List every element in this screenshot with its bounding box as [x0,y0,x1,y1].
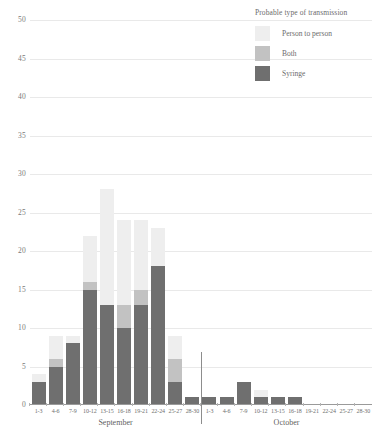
bar-stack [168,336,182,405]
bar-stack [49,336,63,405]
tick-mark [285,403,286,406]
bar-segment [254,390,268,398]
legend-item[interactable]: Syringe [255,63,380,83]
y-axis-tick-50: 50 [2,16,26,24]
bar-group [150,20,167,405]
x-axis-tick-label: 19-21 [134,408,148,414]
bar-group [47,20,64,405]
bar-segment [117,328,131,405]
x-axis-tick-label: 16-18 [117,408,131,414]
bar-segment [134,220,148,289]
bar-stack [237,382,251,405]
bar-group [81,20,98,405]
bar-stack [32,374,46,405]
tick-mark [166,403,167,406]
bar-segment [168,336,182,359]
legend: Probable type of transmission Person to … [255,8,380,83]
tick-mark [114,403,115,406]
y-axis-tick-45: 45 [2,55,26,63]
tick-mark [251,403,252,406]
x-axis-tick-label: 10-12 [83,408,97,414]
y-axis-tick-25: 25 [2,209,26,217]
bar-segment [66,343,80,405]
bar-segment [168,382,182,405]
bar-segment [151,228,165,267]
bar-stack [151,228,165,405]
month-label-october: October [201,418,372,427]
x-axis-tick-label: 25-27 [339,408,353,414]
bar-stack [66,336,80,405]
bar-stack [83,236,97,405]
bar-group [201,20,218,405]
bar-segment [83,290,97,406]
x-axis-tick-label: 13-15 [100,408,114,414]
bar-segment [237,382,251,405]
bar-segment [49,367,63,406]
tick-mark [97,403,98,406]
legend-swatch [255,66,270,81]
legend-item-label: Syringe [282,69,305,78]
bar-segment [32,382,46,405]
legend-item-label: Person to person [282,29,332,38]
legend-item[interactable]: Both [255,43,380,63]
bar-segment [83,282,97,290]
x-axis-tick-label: 22-24 [151,408,165,414]
tick-mark [80,403,81,406]
bar-segment [168,359,182,382]
y-axis-tick-20: 20 [2,247,26,255]
bar-segment [134,305,148,405]
bar-stack [134,220,148,405]
bar-group [184,20,201,405]
bar-segment [83,236,97,282]
bar-segment [100,305,114,405]
tick-mark [132,403,133,406]
x-axis-tick-label: 28-30 [186,408,200,414]
tick-mark [46,403,47,406]
tick-mark [149,403,150,406]
bar-segment [100,189,114,305]
y-axis-tick-35: 35 [2,132,26,140]
bar-segment [117,305,131,328]
bar-segment [151,266,165,405]
legend-swatch [255,46,270,61]
tick-mark [234,403,235,406]
bar-group [98,20,115,405]
x-axis-tick-label: 4-6 [52,408,60,414]
tick-mark [29,403,30,406]
x-axis-tick-label: 22-24 [322,408,336,414]
x-axis-tick-label: 4-6 [223,408,231,414]
bar-segment [134,290,148,305]
y-axis-tick-0: 0 [2,401,26,409]
y-axis-labels: 50454035302520151050 [0,20,30,405]
bar-group [133,20,150,405]
bar-group [115,20,132,405]
x-axis-tick-label: 1-3 [206,408,214,414]
bar-group [64,20,81,405]
tick-mark [337,403,338,406]
bar-stack [254,390,268,405]
x-axis-tick-label: 19-21 [305,408,319,414]
x-axis-tick-label: 10-12 [254,408,268,414]
bar-group [167,20,184,405]
legend-title: Probable type of transmission [255,8,380,17]
y-axis-tick-30: 30 [2,170,26,178]
chart-root: 50454035302520151050 1-34-67-910-1213-15… [0,0,380,446]
y-axis-tick-15: 15 [2,286,26,294]
legend-swatch [255,26,270,41]
tick-mark [183,403,184,406]
x-axis-tick-label: 16-18 [288,408,302,414]
bar-group [218,20,235,405]
x-axis-tick-label: 7-9 [240,408,248,414]
tick-mark [303,403,304,406]
tick-mark [320,403,321,406]
tick-mark [354,403,355,406]
bar-segment [32,374,46,382]
bar-segment [49,359,63,367]
x-axis-tick-label: 7-9 [69,408,77,414]
month-label-september: September [30,418,201,427]
legend-item[interactable]: Person to person [255,23,380,43]
tick-mark [217,403,218,406]
tick-mark [268,403,269,406]
bar-segment [49,336,63,359]
x-axis-tick-label: 28-30 [357,408,371,414]
